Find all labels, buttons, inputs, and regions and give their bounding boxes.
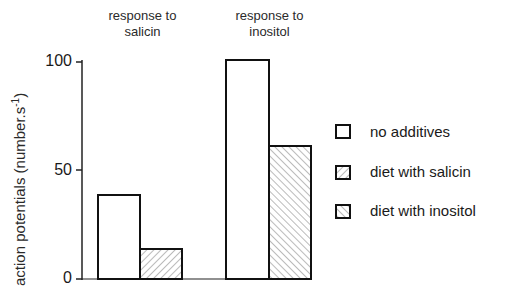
legend-swatch-diet-inositol (336, 205, 350, 218)
bar-salicin-no-additives (98, 195, 140, 279)
chart-canvas (0, 0, 512, 308)
bar-inositol-no-additives (226, 60, 269, 279)
legend-label-diet-salicin: diet with salicin (370, 163, 471, 180)
legend-swatch-diet-salicin (336, 166, 350, 179)
y-axis (76, 60, 82, 280)
bar-salicin-diet-salicin (140, 249, 182, 279)
legend-swatch-no-additives (336, 125, 350, 138)
legend-label-no-additives: no additives (370, 123, 450, 140)
bar-inositol-diet-inositol (269, 146, 311, 279)
legend-label-diet-inositol: diet with inositol (370, 202, 476, 219)
